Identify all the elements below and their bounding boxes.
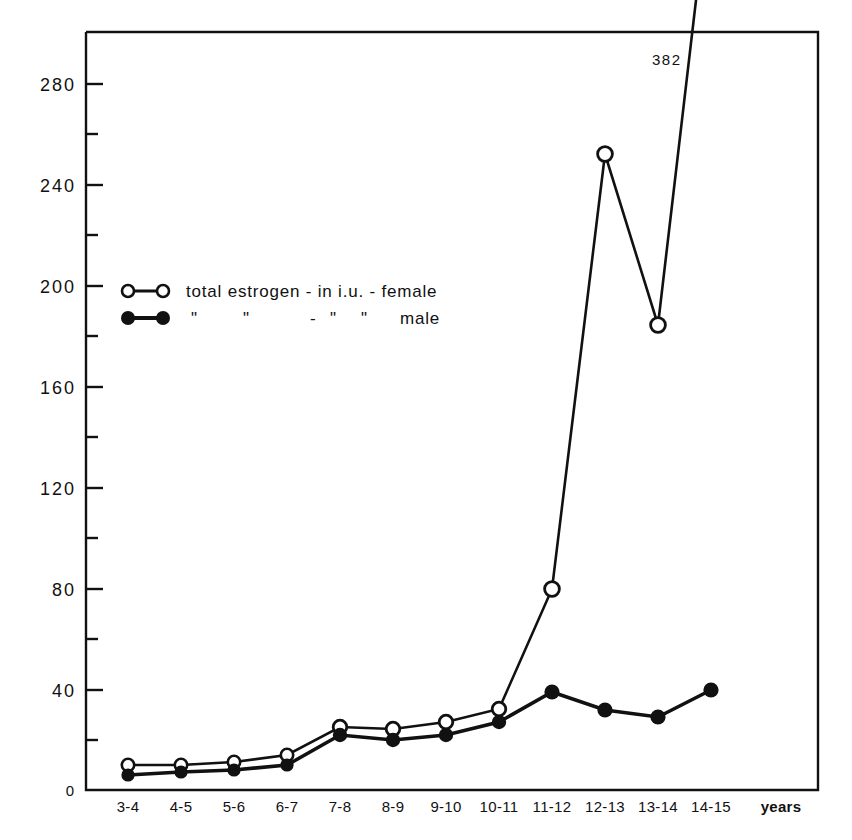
male-point-14-15 [703, 682, 718, 697]
estrogen-line-chart: 280 240 200 160 120 80 40 0 [0, 0, 852, 840]
legend-dash: - [310, 309, 316, 328]
male-point-7-8 [333, 728, 347, 742]
x-tick-label-14-15: 14-15 [691, 798, 731, 815]
x-tick-label-7-8: 7-8 [329, 798, 352, 815]
male-point-3-4 [121, 768, 134, 781]
legend-open-circle-icon-right [157, 285, 169, 297]
female-line [128, 0, 711, 765]
male-point-8-9 [386, 733, 400, 747]
y-axis-ticks [86, 84, 103, 740]
x-tick-label-4-5: 4-5 [170, 798, 193, 815]
x-tick-label-10-11: 10-11 [480, 798, 519, 815]
x-axis-caption: years [761, 798, 802, 815]
x-axis-tick-labels: 3-4 4-5 5-6 6-7 7-8 8-9 9-10 10-11 11-12… [117, 798, 802, 815]
y-tick-label-160: 160 [40, 378, 76, 398]
legend-filled-circle-icon-left [121, 311, 135, 325]
x-tick-label-13-14: 13-14 [638, 798, 678, 815]
legend-ditto-4: " [361, 309, 367, 328]
x-tick-label-9-10: 9-10 [430, 798, 461, 815]
legend-ditto-3: " [330, 309, 336, 328]
female-point-13-14 [651, 318, 666, 333]
legend-label-female: total estrogen - in i.u. - female [186, 282, 437, 301]
y-tick-label-40: 40 [52, 681, 76, 701]
y-tick-label-0: 0 [66, 782, 76, 799]
x-tick-label-8-9: 8-9 [382, 798, 405, 815]
male-point-10-11 [492, 715, 506, 729]
y-tick-label-120: 120 [40, 479, 76, 499]
male-point-13-14 [650, 709, 665, 724]
female-point-12-13 [598, 147, 613, 162]
x-tick-label-11-12: 11-12 [533, 798, 572, 815]
x-tick-label-5-6: 5-6 [223, 798, 246, 815]
series-female [122, 0, 711, 771]
male-point-11-12 [544, 684, 559, 699]
female-point-10-11 [492, 702, 506, 716]
y-tick-label-280: 280 [40, 75, 76, 95]
female-markers [122, 147, 666, 772]
frame-border [86, 32, 818, 790]
legend-open-circle-icon-left [122, 285, 134, 297]
legend: total estrogen - in i.u. - female " " - … [121, 282, 440, 328]
x-tick-label-6-7: 6-7 [276, 798, 299, 815]
series-male [121, 682, 718, 781]
y-tick-label-240: 240 [40, 176, 76, 196]
legend-filled-circle-icon-right [156, 311, 170, 325]
legend-row-female[interactable]: total estrogen - in i.u. - female [122, 282, 437, 301]
male-point-4-5 [174, 765, 187, 778]
female-point-11-12 [545, 582, 560, 597]
male-point-6-7 [280, 758, 293, 771]
legend-ditto-2: " [243, 309, 249, 328]
x-tick-label-3-4: 3-4 [117, 798, 140, 815]
plot-frame [86, 32, 818, 790]
legend-row-male[interactable]: " " - " " male [121, 309, 440, 328]
chart-page: 280 240 200 160 120 80 40 0 [0, 0, 852, 840]
y-tick-label-200: 200 [40, 277, 76, 297]
male-point-12-13 [597, 702, 612, 717]
x-tick-label-12-13: 12-13 [585, 798, 625, 815]
y-tick-label-80: 80 [52, 580, 76, 600]
annotation-382: 382 [652, 51, 682, 68]
y-axis-tick-labels: 280 240 200 160 120 80 40 0 [40, 75, 76, 799]
male-point-5-6 [227, 763, 240, 776]
male-point-9-10 [439, 728, 453, 742]
legend-ditto-1: " [191, 309, 197, 328]
female-point-9-10 [439, 715, 453, 729]
legend-label-male-tail: male [400, 309, 440, 328]
male-markers [121, 682, 718, 781]
